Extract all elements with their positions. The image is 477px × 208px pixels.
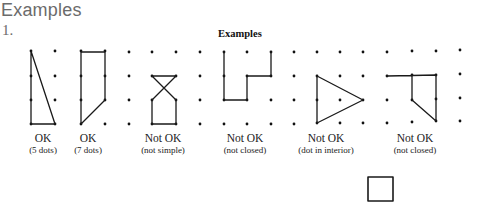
shape-not-closed-2 [387,75,436,121]
shape-ok-7-dots [81,52,105,124]
example-label-5: Not OK (dot in interior) [298,132,354,156]
example-label-2: OK (7 dots) [74,132,102,156]
example-label-3: Not OK (not simple) [141,132,185,156]
example-label-4: Not OK (not closed) [224,132,267,156]
shape-not-closed-1 [224,52,271,100]
square-shape [368,177,393,201]
shape-ok-5-dots [31,51,55,124]
dot-grid-figure [0,0,477,208]
shape-not-simple [152,76,176,124]
grid-dots [30,49,462,126]
example-label-1: OK (5 dots) [29,132,57,156]
example-label-6: Not OK (not closed) [394,132,437,156]
